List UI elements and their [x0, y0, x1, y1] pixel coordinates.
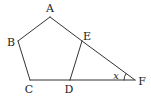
- segment-ea: [50, 17, 82, 41]
- label-a: A: [45, 2, 55, 15]
- label-b: B: [7, 36, 15, 49]
- segment-ef: [82, 41, 135, 80]
- angle-label-x: x: [113, 70, 119, 81]
- segment-bc: [18, 41, 30, 80]
- diagram-canvas: A B C D E F x: [0, 0, 151, 98]
- label-d: D: [65, 83, 74, 96]
- angle-arc-f: [124, 74, 126, 81]
- segment-ab: [18, 17, 50, 41]
- label-f: F: [138, 75, 146, 88]
- label-c: C: [25, 83, 33, 96]
- pentagon-diagram: A B C D E F x: [0, 0, 151, 98]
- segment-de: [70, 41, 82, 80]
- label-e: E: [83, 30, 91, 43]
